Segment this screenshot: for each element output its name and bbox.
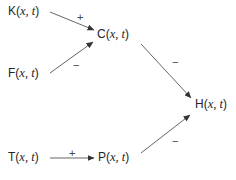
edge-c-to-h-sign: − — [172, 56, 178, 68]
edge-k-to-c-sign: + — [77, 11, 83, 23]
node-p-args: x, t — [110, 150, 125, 164]
edge-f-to-c — [50, 42, 93, 73]
node-k: K(x, t) — [8, 4, 39, 18]
edge-p-to-h — [141, 115, 190, 153]
node-h-letter: H — [195, 97, 204, 111]
node-c-letter: C — [97, 27, 106, 41]
node-k-args: x, t — [20, 4, 35, 18]
node-f-args: x, t — [19, 66, 34, 80]
diagram-canvas: K(x, t) F(x, t) C(x, t) H(x, t) T(x, t) … — [0, 0, 236, 180]
node-p-letter: P — [98, 150, 106, 164]
node-k-letter: K — [8, 4, 16, 18]
edge-t-to-p-sign: + — [69, 147, 75, 159]
node-h: H(x, t) — [195, 97, 227, 111]
edge-p-to-h-sign: − — [172, 135, 178, 147]
node-f: F(x, t) — [8, 66, 39, 80]
node-c-args: x, t — [110, 27, 125, 41]
edge-f-to-c-sign: − — [73, 59, 79, 71]
edge-c-to-h — [141, 44, 191, 98]
node-c: C(x, t) — [97, 27, 129, 41]
node-p: P(x, t) — [98, 150, 129, 164]
node-t-args: x, t — [19, 150, 34, 164]
edge-k-to-c — [50, 12, 94, 30]
node-t: T(x, t) — [8, 150, 39, 164]
node-h-args: x, t — [208, 97, 223, 111]
